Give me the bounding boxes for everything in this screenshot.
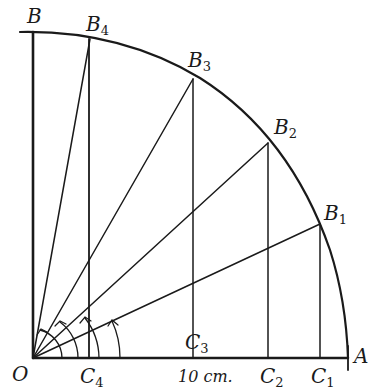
label-B4: B4	[86, 14, 109, 37]
angle-arc-3	[60, 322, 78, 358]
scale-label: 10 cm.	[178, 369, 233, 385]
label-B3: B3	[188, 50, 211, 73]
arc-BA	[20, 32, 348, 358]
label-C1: C1	[311, 366, 335, 389]
radius-OB3	[33, 79, 193, 358]
label-C4: C4	[80, 366, 104, 389]
radius-OB2	[33, 143, 268, 358]
label-O: O	[12, 364, 28, 384]
label-C3: C3	[185, 332, 209, 355]
angle-arc-2	[85, 318, 99, 358]
radius-OB1	[33, 224, 320, 358]
label-B1: B1	[324, 203, 347, 226]
diagram-canvas: B B4 B3 B2 B1 O A C3 C4 C2 C1 10 cm.	[0, 0, 379, 392]
label-B: B	[27, 6, 42, 26]
angle-arc-1	[112, 321, 120, 358]
label-B2: B2	[274, 117, 297, 140]
label-A: A	[354, 346, 368, 366]
label-C2: C2	[260, 366, 284, 389]
radius-OB4	[33, 39, 90, 358]
